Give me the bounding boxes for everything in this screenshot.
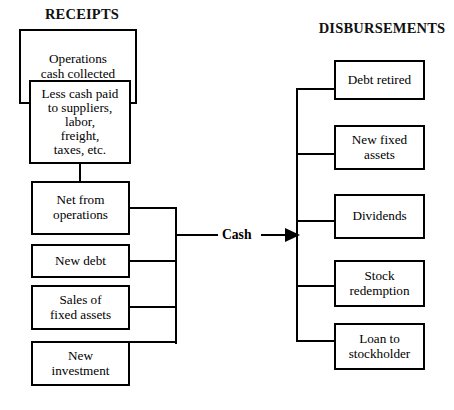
box-net-from-operations: Net from operations [31,181,130,235]
debt-retired-label: Debt retired [348,72,411,87]
connector-newdebt-to-bus [128,260,177,262]
box-new-debt: New debt [31,244,130,278]
connector-bus-to-dividends [296,220,336,222]
connector-bus-to-loan-to-stockholder [296,340,336,342]
cash-flow-line-right [261,234,288,236]
receipts-header: RECEIPTS [19,6,145,23]
box-less-cash-paid: Less cash paid to suppliers, labor, frei… [29,80,131,164]
box-debt-retired: Debt retired [334,60,425,100]
operations-cash-collected-line2: cash collected [41,66,115,81]
new-debt-label: New debt [55,253,106,268]
connector-salesfixed-to-bus [128,306,177,308]
receipts-bus-trunk [175,207,177,344]
disbursements-bus-trunk [296,88,298,342]
diagram-canvas: RECEIPTS DISBURSEMENTS Operations cash c… [0,0,454,410]
less-cash-paid-line4: freight, [61,128,99,143]
sales-fixed-assets-line1: Sales of [59,292,101,307]
new-fixed-assets-line1: New fixed [352,132,407,147]
less-cash-paid-line5: taxes, etc. [54,142,106,157]
box-new-fixed-assets: New fixed assets [334,125,425,170]
loan-to-stockholder-line2: stockholder [349,346,411,361]
stock-redemption-line2: redemption [349,283,409,298]
box-new-investment: New investment [31,341,130,386]
connector-lesscash-to-netops [79,163,81,182]
box-dividends: Dividends [334,194,425,239]
box-loan-to-stockholder: Loan to stockholder [334,323,425,370]
box-stock-redemption: Stock redemption [334,260,425,307]
disbursements-header: DISBURSEMENTS [312,20,452,37]
dividends-label: Dividends [352,208,406,223]
connector-bus-to-new-fixed-assets [296,153,336,155]
loan-to-stockholder-line1: Loan to [359,331,400,346]
operations-cash-collected-line1: Operations [49,51,107,66]
connector-bus-to-debt-retired [296,88,336,90]
connector-netops-to-bus [128,207,177,209]
cash-flow-line-left [175,234,218,236]
less-cash-paid-line2: to suppliers, [48,100,112,115]
less-cash-paid-line1: Less cash paid [42,86,119,101]
new-investment-line2: investment [52,363,110,378]
box-sales-of-fixed-assets: Sales of fixed assets [31,285,130,330]
sales-fixed-assets-line2: fixed assets [50,307,111,322]
new-investment-line1: New [68,348,93,363]
connector-bus-to-stock-redemption [296,285,336,287]
new-fixed-assets-line2: assets [364,147,395,162]
connector-newinvestment-to-bus [128,341,177,343]
stock-redemption-line1: Stock [364,268,394,283]
less-cash-paid-line3: labor, [65,114,95,129]
net-from-operations-line1: Net from [57,192,105,207]
net-from-operations-line2: operations [53,207,108,222]
cash-flow-label: Cash [222,227,251,243]
